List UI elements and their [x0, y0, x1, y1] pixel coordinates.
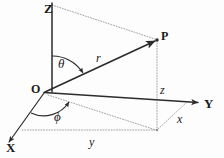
axis-label-z: Z [44, 2, 53, 15]
theta-arc [52, 56, 83, 73]
origin-label: O [31, 83, 40, 95]
spherical-coordinate-diagram: Z Y X O P r θ ϕ z x y [0, 0, 224, 158]
radius-label: r [96, 52, 101, 64]
x-axis-line [9, 93, 44, 142]
axes-group [9, 3, 198, 142]
x-component-label: x [177, 113, 182, 125]
diagram-canvas [0, 0, 224, 158]
theta-label: θ [58, 57, 64, 70]
point-p-marker [155, 38, 158, 41]
phi-label: ϕ [54, 110, 61, 123]
construction-lines [22, 5, 186, 130]
dotted-origin-to-projection [48, 95, 156, 130]
y-component-label: y [89, 136, 94, 148]
dotted-z-to-p [52, 5, 155, 39]
axis-label-y: Y [204, 97, 213, 110]
projection-point-marker [156, 129, 158, 131]
axis-label-x: X [6, 141, 15, 154]
z-component-label: z [160, 84, 165, 96]
point-label-p: P [161, 30, 168, 42]
